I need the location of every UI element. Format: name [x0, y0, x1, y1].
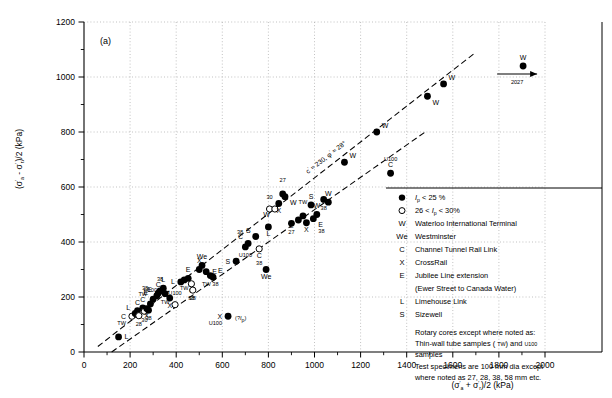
point-sample-note: TW — [117, 320, 126, 326]
data-point: W — [424, 93, 439, 106]
data-point: L — [160, 276, 167, 292]
data-point: S — [246, 227, 259, 240]
point-sample-note: 38 — [321, 205, 327, 211]
point-site-label: W — [432, 99, 439, 106]
legend-note: where noted as 27, 28, 38, 58 mm etc. — [414, 373, 541, 382]
marker-open — [172, 302, 178, 308]
legend-marker-letter: We — [396, 232, 407, 241]
point-site-label: W — [325, 190, 332, 197]
point-site-label: E — [218, 267, 223, 274]
legend-row: WeWestminster — [396, 232, 456, 241]
point-site-label: W — [263, 211, 270, 218]
legend-row: EJubilee Line extension — [399, 271, 488, 280]
point-site-label: We — [197, 253, 207, 260]
svg-text:0: 0 — [70, 347, 75, 357]
data-point: E38 — [310, 215, 325, 234]
marker-filled — [115, 333, 122, 340]
marker-filled — [233, 258, 240, 265]
marker-filled — [387, 170, 394, 177]
panel-label: (a) — [100, 36, 111, 46]
svg-text:1400: 1400 — [397, 360, 416, 370]
marker-filled — [520, 63, 527, 70]
data-point: W — [282, 193, 297, 206]
marker-filled — [313, 211, 320, 218]
marker-filled — [275, 200, 282, 207]
data-point: L — [115, 333, 128, 340]
data-point: 2027W — [497, 54, 537, 85]
legend-marker-letter: W — [398, 219, 406, 228]
point-sample-note: TW — [299, 199, 308, 205]
marker-open — [190, 287, 196, 293]
point-sample-note: 38 — [145, 315, 151, 321]
point-sample-note: U100 — [239, 252, 252, 258]
legend-row: Ip < 25 % — [399, 193, 446, 203]
marker-open — [188, 281, 194, 287]
point-site-label: We — [261, 273, 271, 280]
point-query-note: (?Ip) — [235, 315, 246, 323]
marker-filled — [199, 262, 206, 269]
legend-label: Channel Tunnel Rail Link — [415, 245, 497, 254]
scatter-chart: 0200400600800100012001400160018002000020… — [0, 0, 612, 398]
marker-filled — [225, 313, 232, 320]
trend-line-1 — [112, 132, 425, 352]
legend-note: Thin-wall tube samples ( TW) and U100 — [415, 339, 537, 348]
marker-open — [256, 246, 262, 252]
marker-filled — [440, 80, 447, 87]
svg-text:200: 200 — [61, 292, 75, 302]
point-site-label: X — [276, 207, 281, 214]
data-points: LCTWLC28CTW30X38U100E38EC38LTWXU100LTWEC… — [115, 54, 537, 341]
legend-marker-letter: L — [400, 297, 404, 306]
point-site-label: X — [217, 313, 222, 320]
svg-text:400: 400 — [61, 237, 75, 247]
data-point: We — [261, 266, 271, 280]
point-sample-note: 28 — [190, 295, 196, 301]
svg-text:800: 800 — [261, 360, 275, 370]
figure-root: 0200400600800100012001400160018002000020… — [0, 0, 612, 398]
legend-row: SSizewell — [399, 310, 442, 319]
svg-text:200: 200 — [123, 360, 137, 370]
svg-text:1000: 1000 — [305, 360, 324, 370]
point-site-label: E — [318, 221, 323, 228]
point-sample-note: 38 — [318, 228, 324, 234]
data-point: XU100(?Ip) — [209, 313, 247, 326]
legend-label: 26 < Ip < 30% — [415, 206, 460, 216]
marker-filled — [145, 307, 152, 314]
point-sample-note: 38 — [237, 229, 243, 235]
point-site-label: W — [449, 74, 456, 81]
marker-filled — [303, 219, 310, 226]
point-site-label: X — [304, 226, 309, 233]
data-point: S — [225, 258, 239, 265]
point-site-label: W — [520, 54, 527, 61]
legend-row: LLimehouse Link — [400, 297, 467, 306]
marker-filled — [245, 240, 252, 247]
marker-filled — [424, 93, 431, 100]
point-site-label: C — [257, 252, 262, 259]
point-sample-note: U100 — [384, 156, 397, 162]
svg-text:400: 400 — [169, 360, 183, 370]
legend-note: samples — [415, 350, 443, 359]
point-site-label: W — [314, 202, 321, 209]
data-point: W — [440, 74, 455, 87]
point-site-label: W — [382, 122, 389, 129]
point-site-label: C — [121, 313, 126, 320]
svg-text:800: 800 — [61, 127, 75, 137]
point-site-label: S — [309, 193, 314, 200]
legend-note: Test specimens are 100 mm dia except — [415, 362, 543, 371]
data-point: X — [303, 219, 310, 233]
data-point: L — [265, 223, 272, 237]
legend-marker-filled — [399, 194, 405, 200]
marker-filled — [300, 212, 307, 219]
point-site-label: E — [147, 286, 152, 293]
svg-text:600: 600 — [215, 360, 229, 370]
legend-label: (Ewer Street to Canada Water) — [415, 284, 516, 293]
legend-label: Jubilee Line extension — [415, 271, 488, 280]
point-site-label: L — [161, 276, 165, 283]
marker-filled — [252, 233, 259, 240]
point-value: 2027 — [511, 79, 523, 85]
point-sample-note: 27 — [280, 177, 286, 183]
data-point: X — [275, 200, 282, 214]
point-site-label: L — [289, 222, 293, 229]
legend-marker-letter: S — [399, 310, 404, 319]
svg-text:1200: 1200 — [351, 360, 370, 370]
svg-text:(σ′a - σ′r)/2 (kPa): (σ′a - σ′r)/2 (kPa) — [14, 129, 25, 189]
